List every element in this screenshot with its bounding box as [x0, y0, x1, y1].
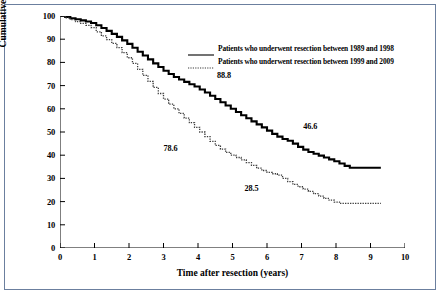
y-tick-label: 30	[33, 173, 55, 183]
series-line-solid	[60, 16, 381, 168]
y-tick-label: 80	[33, 57, 55, 67]
survival-chart-figure: Cumulative survival (%) Time after resec…	[0, 0, 440, 294]
y-tick-label: 10	[33, 220, 55, 230]
legend-item-solid: Patients who underwent resection between…	[188, 42, 410, 55]
legend-line-solid-icon	[188, 45, 214, 53]
x-tick-label: 3	[156, 252, 172, 262]
data-label-78-6: 78.6	[164, 144, 178, 153]
data-label-46-6: 46.6	[303, 122, 317, 131]
y-tick-label: 90	[33, 34, 55, 44]
chart-legend: Patients who underwent resection between…	[188, 42, 410, 68]
x-axis-label: Time after resection (years)	[60, 268, 405, 278]
legend-item-dotted: Patients who underwent resection between…	[188, 55, 410, 68]
y-tick-label: 50	[33, 127, 55, 137]
x-tick-label: 6	[259, 252, 275, 262]
x-tick-label: 4	[190, 252, 206, 262]
legend-line-dotted-icon	[188, 58, 214, 66]
x-tick-label: 7	[294, 252, 310, 262]
x-tick-label: 10	[397, 252, 413, 262]
legend-label-dotted: Patients who underwent resection between…	[218, 57, 394, 66]
y-tick-label: 60	[33, 104, 55, 114]
legend-label-solid: Patients who underwent resection between…	[218, 44, 394, 53]
y-tick-label: 40	[33, 150, 55, 160]
y-tick-label: 20	[33, 197, 55, 207]
x-tick-label: 1	[87, 252, 103, 262]
x-tick-label: 9	[363, 252, 379, 262]
data-label-88-8: 88.8	[217, 71, 231, 80]
y-tick-label: 70	[33, 81, 55, 91]
data-label-28-5: 28.5	[245, 184, 259, 193]
y-axis-label: Cumulative survival (%)	[0, 0, 8, 62]
x-tick-label: 5	[225, 252, 241, 262]
y-tick-label: 100	[33, 11, 55, 21]
x-tick-label: 2	[121, 252, 137, 262]
x-tick-label: 8	[328, 252, 344, 262]
x-tick-label: 0	[52, 252, 68, 262]
